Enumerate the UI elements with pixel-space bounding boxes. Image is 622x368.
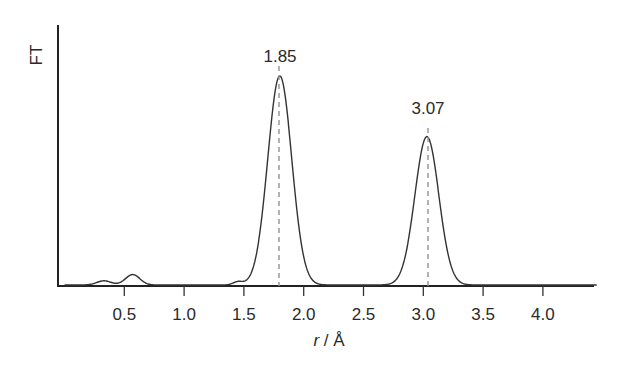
x-axis-title: r / Å — [313, 331, 345, 350]
x-tick-label: 3.5 — [471, 305, 495, 324]
ft-chart: FT 0.51.01.52.02.53.03.54.0 1.85 3.07 r … — [0, 0, 622, 368]
x-tick-label: 2.5 — [352, 305, 376, 324]
x-tick-label: 4.0 — [531, 305, 555, 324]
y-axis-title: FT — [27, 45, 46, 66]
x-tick-label: 3.0 — [411, 305, 435, 324]
x-tick-label: 1.5 — [232, 305, 256, 324]
ft-curve — [65, 76, 597, 285]
x-axis-title-unit: / Å — [319, 331, 345, 350]
peak-label-2: 3.07 — [411, 99, 444, 118]
x-tick-label: 2.0 — [292, 305, 316, 324]
peak-label-1: 1.85 — [263, 47, 296, 66]
x-tick-label: 0.5 — [112, 305, 136, 324]
x-tick-label: 1.0 — [172, 305, 196, 324]
x-ticks: 0.51.01.52.02.53.03.54.0 — [112, 286, 554, 324]
